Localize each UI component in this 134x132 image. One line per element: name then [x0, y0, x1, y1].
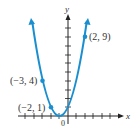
point-neg3-4: [40, 79, 45, 84]
label-neg3-4: (−3, 4): [10, 75, 37, 87]
point-neg2-1: [49, 105, 54, 110]
parabola-graph: (−3, 4) (−2, 1) (2, 9) x y 0: [0, 0, 134, 132]
point-2-9: [83, 35, 88, 40]
label-2-9: (2, 9): [89, 31, 111, 43]
origin-label: 0: [61, 119, 65, 128]
x-axis-label: x: [125, 111, 130, 121]
y-axis-label: y: [64, 4, 69, 14]
label-neg2-1: (−2, 1): [18, 102, 45, 114]
x-axis: [18, 113, 124, 119]
